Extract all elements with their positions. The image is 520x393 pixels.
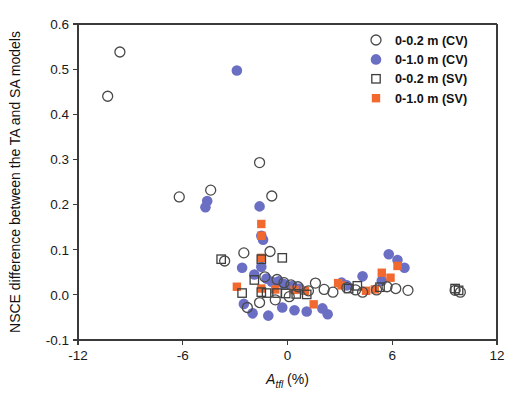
x-tick-label: 6 <box>388 348 396 363</box>
data-point <box>174 192 184 202</box>
x-axis-title-unit: (%) <box>283 371 309 387</box>
y-tick-label: 0.1 <box>50 243 69 258</box>
data-points-layer <box>103 47 466 321</box>
data-point <box>254 201 265 212</box>
data-point <box>115 47 125 57</box>
data-point <box>239 248 249 258</box>
chart-canvas: -0.10.00.10.20.30.40.50.6-12-60612 0-0.2… <box>0 0 520 393</box>
legend-item: 0-1.0 m (SV) <box>372 92 467 106</box>
x-axis-title: Atfl (%) <box>265 371 309 390</box>
data-point <box>200 202 211 213</box>
y-tick-label: -0.1 <box>46 333 69 348</box>
data-point <box>220 256 230 266</box>
y-tick-label: 0.3 <box>50 152 69 167</box>
data-point <box>328 287 338 297</box>
data-point <box>257 220 265 228</box>
legend-label: 0-1.0 m (CV) <box>395 53 468 67</box>
series-open-circle <box>103 47 466 313</box>
y-tick-label: 0.4 <box>50 107 69 122</box>
tick-labels-layer: -0.10.00.10.20.30.40.50.6-12-60612 <box>46 17 505 363</box>
data-point <box>403 285 413 295</box>
legend-item: 0-0.2 m (SV) <box>372 72 467 86</box>
y-axis-title: NSCE difference between the TA and SA mo… <box>7 31 23 333</box>
y-tick-label: 0.5 <box>50 62 69 77</box>
data-point <box>378 269 386 277</box>
data-point <box>310 278 320 288</box>
legend-marker-open-square <box>372 75 380 83</box>
data-point <box>257 232 265 240</box>
data-point <box>267 191 277 201</box>
data-point <box>103 91 113 101</box>
data-point <box>357 271 368 282</box>
data-point <box>232 65 243 76</box>
data-point <box>289 305 300 316</box>
x-tick-label: 0 <box>284 348 292 363</box>
data-point <box>322 309 333 320</box>
scatter-chart-figure: -0.10.00.10.20.30.40.50.6-12-60612 0-0.2… <box>0 0 520 393</box>
legend-item: 0-1.0 m (CV) <box>371 53 468 67</box>
x-tick-label: -6 <box>177 348 189 363</box>
legend-label: 0-0.2 m (SV) <box>395 72 467 86</box>
series-open-square <box>217 254 463 299</box>
data-point <box>263 310 274 321</box>
data-point <box>278 254 286 262</box>
legend-marker-filled-square <box>372 94 380 102</box>
legend-marker-filled-circle <box>371 54 382 65</box>
data-point <box>233 283 241 291</box>
data-point <box>255 158 265 168</box>
data-point <box>383 249 394 260</box>
x-tick-label: 12 <box>489 348 504 363</box>
data-point <box>393 262 401 270</box>
chart-legend: 0-0.2 m (CV)0-1.0 m (CV)0-0.2 m (SV)0-1.… <box>371 34 468 106</box>
data-point <box>255 298 265 308</box>
data-point <box>309 300 317 308</box>
data-point <box>270 295 280 305</box>
data-point <box>247 308 258 319</box>
legend-label: 0-0.2 m (CV) <box>395 34 468 48</box>
legend-marker-open-circle <box>371 35 381 45</box>
legend-item: 0-0.2 m (CV) <box>371 34 468 48</box>
legend-label: 0-1.0 m (SV) <box>395 92 467 106</box>
y-tick-label: 0.6 <box>50 17 69 32</box>
data-point <box>206 185 216 195</box>
data-point <box>237 262 248 273</box>
y-tick-label: 0.2 <box>50 197 69 212</box>
data-point <box>284 292 294 302</box>
x-axis-title-symbol: A <box>265 371 275 387</box>
data-point <box>265 247 275 257</box>
x-tick-label: -12 <box>68 348 88 363</box>
y-tick-label: 0.0 <box>50 288 69 303</box>
data-point <box>386 274 394 282</box>
